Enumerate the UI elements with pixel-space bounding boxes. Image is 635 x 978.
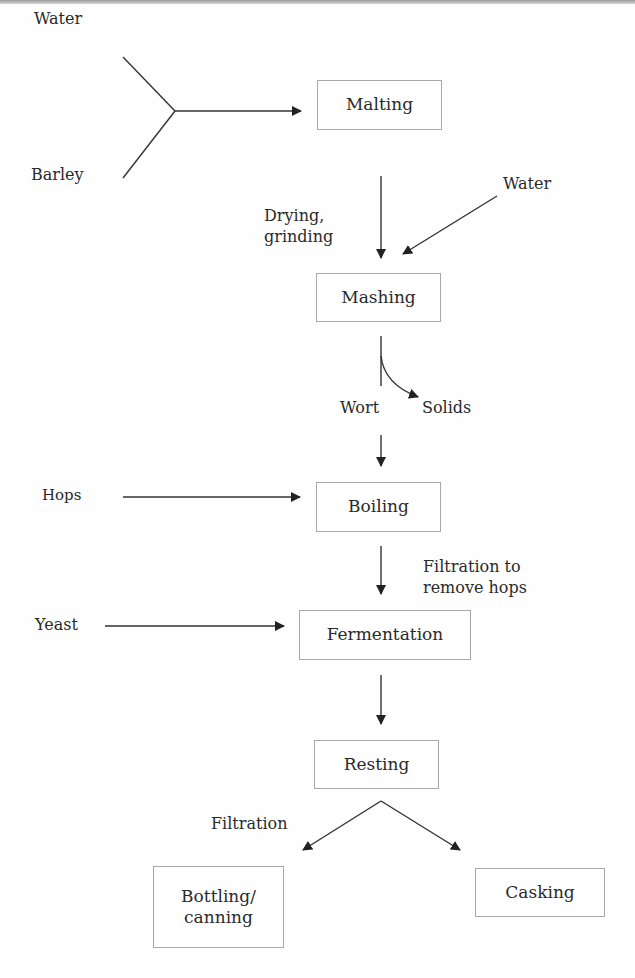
input-hops-label: Hops: [42, 486, 81, 506]
solids-label: Solids: [422, 398, 471, 419]
step-fermentation: Fermentation: [299, 610, 471, 660]
step-bottling-canning: Bottling/ canning: [153, 866, 284, 948]
canning-line: canning: [184, 907, 253, 928]
water-to-mashing-arrow: [403, 196, 497, 254]
step-casking: Casking: [475, 868, 605, 917]
step-malting: Malting: [317, 80, 442, 130]
resting-to-casking-arrow: [381, 801, 460, 850]
step-resting: Resting: [314, 740, 439, 789]
grinding-line: grinding: [264, 227, 333, 248]
step-mashing: Mashing: [316, 273, 441, 322]
bottling-line: Bottling/: [181, 886, 256, 907]
input-water-2-label: Water: [503, 174, 551, 195]
input-water-label: Water: [34, 9, 82, 30]
filtration-to-line: Filtration to: [423, 557, 527, 578]
step-boiling: Boiling: [316, 482, 441, 532]
remove-hops-line: remove hops: [423, 578, 527, 599]
water-input-line: [123, 57, 175, 111]
drying-line: Drying,: [264, 206, 333, 227]
resting-to-bottling-arrow: [303, 801, 381, 850]
input-yeast-label: Yeast: [35, 615, 78, 636]
filtration-label: Filtration: [211, 814, 287, 835]
input-barley-label: Barley: [31, 165, 84, 186]
solids-arrow: [381, 356, 418, 397]
wort-label: Wort: [340, 398, 379, 419]
filtration-remove-hops-label: Filtration to remove hops: [423, 557, 527, 599]
drying-grinding-label: Drying, grinding: [264, 206, 333, 248]
barley-input-line: [123, 111, 175, 178]
